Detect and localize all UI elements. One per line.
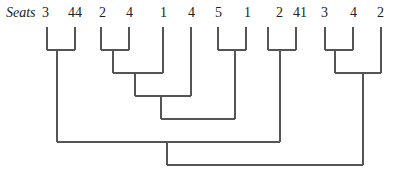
dendrogram-diagram: Seats 3 44 2 4 1 4 5 1 2 41 3 4 2 [0,0,403,173]
merge-3-44 [47,27,75,142]
merge-2-41 [268,27,296,142]
merge-left-cluster [57,142,280,165]
merge-2-4 [101,27,129,73]
merge-24-1 [113,27,163,96]
merge-3-4 [325,27,353,73]
dendrogram-lines [0,0,403,173]
merge-5-1 [218,27,246,119]
merge-34-2 [335,27,381,165]
